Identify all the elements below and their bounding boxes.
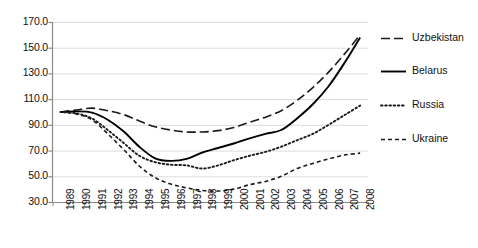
y-tick-label: 50.0 xyxy=(0,169,48,181)
line-chart: 30.050.070.090.0110.0130.0150.0170.0 198… xyxy=(0,0,478,248)
series-lines xyxy=(60,35,360,191)
x-tick-label: 2004 xyxy=(302,189,313,210)
x-tick-label: 2000 xyxy=(239,189,250,210)
x-tick-label: 1989 xyxy=(65,189,76,210)
x-tick-label: 2002 xyxy=(270,189,281,210)
x-tick-label: 2006 xyxy=(334,189,345,210)
x-tick-label: 1997 xyxy=(192,189,203,210)
legend-item-russia[interactable]: Russia xyxy=(412,98,444,110)
gridlines xyxy=(53,23,369,203)
plot-area xyxy=(0,0,478,248)
x-tick-label: 1998 xyxy=(207,189,218,210)
legend-item-uzbekistan[interactable]: Uzbekistan xyxy=(412,31,464,43)
legend-swatches xyxy=(381,39,406,140)
y-tick-label: 130.0 xyxy=(0,66,48,78)
legend-item-ukraine[interactable]: Ukraine xyxy=(412,132,448,144)
x-tick-label: 2003 xyxy=(286,189,297,210)
x-tick-label: 2005 xyxy=(318,189,329,210)
x-tick-label: 2007 xyxy=(349,189,360,210)
x-tick-label: 1995 xyxy=(160,189,171,210)
x-tick-label: 1999 xyxy=(223,189,234,210)
x-tick-label: 2001 xyxy=(255,189,266,210)
y-tick-label: 90.0 xyxy=(0,118,48,130)
series-line-russia xyxy=(60,106,360,169)
x-tick-label: 1994 xyxy=(144,189,155,210)
x-tick-label: 1991 xyxy=(97,189,108,210)
x-tick-label: 2008 xyxy=(365,189,376,210)
axis-lines xyxy=(53,22,369,203)
x-tick-label: 1992 xyxy=(113,189,124,210)
y-tick-label: 70.0 xyxy=(0,144,48,156)
y-tick-label: 30.0 xyxy=(0,195,48,207)
y-tick-label: 150.0 xyxy=(0,41,48,53)
x-tick-label: 1996 xyxy=(176,189,187,210)
y-tick-label: 110.0 xyxy=(0,92,48,104)
x-tick-label: 1990 xyxy=(81,189,92,210)
y-tick-label: 170.0 xyxy=(0,15,48,27)
x-tick-label: 1993 xyxy=(128,189,139,210)
legend-item-belarus[interactable]: Belarus xyxy=(412,64,448,76)
